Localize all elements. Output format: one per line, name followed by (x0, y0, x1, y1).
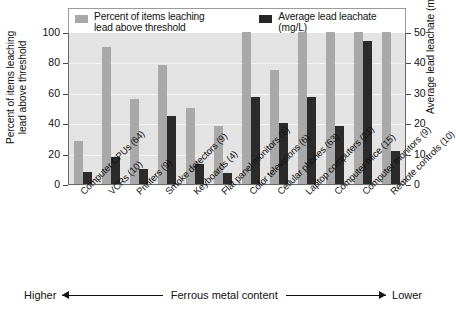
legend-label-percent-leaching: Percent of items leaching lead above thr… (94, 12, 205, 33)
x-axis-labels: Computer CPUs (64)VCRs (10)Printers (9)S… (68, 186, 406, 278)
arrow-left-icon (62, 290, 162, 300)
legend-item-percent-leaching: Percent of items leaching lead above thr… (75, 12, 259, 33)
bar-group (69, 33, 97, 184)
bar-percent-leaching (74, 141, 83, 184)
y-axis-left: Percent of items leaching lead above thr… (0, 33, 68, 185)
bar-average-leachate (167, 116, 176, 184)
legend-item-average-leachate: Average lead leachate (mg/L) (259, 12, 401, 33)
scale-label-higher: Higher (24, 289, 56, 301)
scale-label-lower: Lower (392, 289, 422, 301)
legend-swatch-light-icon (75, 15, 88, 23)
y-axis-right-title: Average lead leachate (mg/L) (425, 0, 437, 122)
arrow-right-icon (286, 290, 386, 300)
y-axis-left-title: Percent of items leaching lead above thr… (5, 13, 30, 161)
legend-label-average-leachate: Average lead leachate (mg/L) (278, 12, 401, 33)
legend-swatch-dark-icon (259, 15, 272, 23)
ferrous-content-scale: Higher Ferrous metal content Lower (24, 286, 422, 304)
scale-label-center: Ferrous metal content (169, 289, 280, 301)
